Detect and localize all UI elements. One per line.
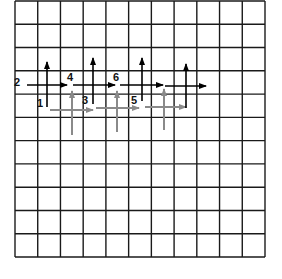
gray-arrow-group (50, 89, 186, 135)
point-label-3: 3 (82, 94, 88, 106)
point-label-4: 4 (67, 71, 74, 83)
label-group: 214365 (14, 71, 137, 109)
grid (15, 1, 265, 257)
point-label-5: 5 (131, 94, 137, 106)
point-label-6: 6 (113, 71, 119, 83)
point-label-2: 2 (14, 76, 20, 88)
point-label-1: 1 (37, 97, 43, 109)
vector-grid-diagram: 214365 (0, 0, 282, 279)
